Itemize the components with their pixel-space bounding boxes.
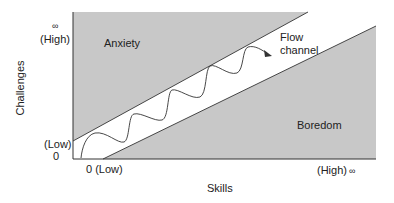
anxiety-label: Anxiety bbox=[104, 37, 140, 49]
x-min-label: 0 (Low) bbox=[86, 163, 123, 175]
y-min-label: (Low) bbox=[44, 138, 72, 150]
flow-label: Flow bbox=[280, 31, 303, 43]
x-axis-title: Skills bbox=[207, 182, 233, 194]
x-max-infinity: ∞ bbox=[349, 165, 355, 177]
arrow-head-icon bbox=[264, 50, 272, 57]
x-max-label: (High) bbox=[317, 164, 347, 176]
boredom-label: Boredom bbox=[297, 119, 342, 131]
y-min-value: 0 bbox=[53, 150, 59, 162]
y-axis-title: Challenges bbox=[14, 60, 26, 115]
channel-label: channel bbox=[280, 44, 319, 56]
y-max-label: (High) bbox=[40, 33, 70, 45]
y-max-infinity: ∞ bbox=[52, 20, 58, 32]
